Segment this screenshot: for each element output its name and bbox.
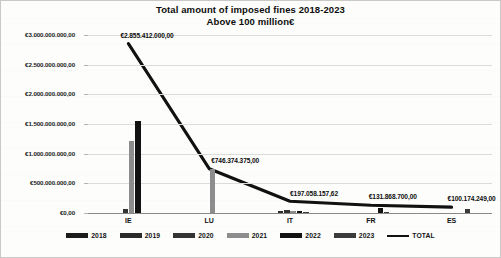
legend-swatch-2022 (280, 233, 302, 238)
bar-2022-IT (297, 211, 303, 213)
scan-artifact (0, 44, 501, 45)
legend-item-2021[interactable]: 2021 (227, 232, 268, 239)
bar-2023-FR (384, 212, 390, 213)
gridline (88, 183, 492, 184)
bar-2019-IT (278, 211, 284, 213)
y-axis-tick-mark (84, 183, 88, 184)
bar-2021-LU (210, 169, 216, 213)
legend-label-2021: 2021 (252, 232, 268, 239)
scan-artifact (0, 148, 501, 149)
legend-swatch-2018 (66, 233, 88, 238)
legend-swatch-2021 (227, 233, 249, 238)
legend-item-2019[interactable]: 2019 (120, 232, 161, 239)
scan-artifact (0, 70, 501, 71)
legend-label-2019: 2019 (145, 232, 161, 239)
y-axis-tick-mark (84, 124, 88, 125)
y-axis-tick-label: €2.500.000.000,00 (0, 61, 75, 68)
gridline (88, 124, 492, 125)
data-label-IE: €2.855.412.000,00 (120, 32, 173, 39)
page-title: Total amount of imposed fines 2018-2023 (0, 4, 501, 16)
bar-2022-FR (378, 208, 384, 213)
x-axis-line (88, 213, 492, 214)
y-axis-tick-mark (84, 65, 88, 66)
y-axis-tick-label: €3.000.000.000,00 (0, 31, 75, 38)
scan-artifact (0, 122, 501, 123)
chart-legend: 201820192020202120222023TOTAL (0, 232, 501, 239)
data-label-IT: €197.058.157,62 (290, 190, 338, 197)
y-axis-tick-label: €1.000.000.000,00 (0, 150, 75, 157)
x-axis-category-IT: IT (270, 217, 310, 224)
legend-label-2020: 2020 (198, 232, 214, 239)
bar-2023-IT (303, 212, 309, 213)
legend-item-2022[interactable]: 2022 (280, 232, 321, 239)
legend-item-TOTAL[interactable]: TOTAL (387, 232, 435, 239)
legend-label-2023: 2023 (359, 232, 375, 239)
legend-label-TOTAL: TOTAL (412, 232, 435, 239)
legend-label-2022: 2022 (305, 232, 321, 239)
x-axis-category-LU: LU (189, 217, 229, 224)
y-axis-tick-label: €0,00 (0, 209, 75, 216)
legend-item-2020[interactable]: 2020 (173, 232, 214, 239)
legend-swatch-2023 (334, 233, 356, 238)
legend-item-2018[interactable]: 2018 (66, 232, 107, 239)
plot-area: €3.000.000.000,00€2.500.000.000,00€2.000… (88, 35, 492, 213)
y-axis-tick-label: €500.000.000,00 (0, 179, 75, 186)
bar-2021-IT (290, 211, 296, 213)
gridline (88, 65, 492, 66)
bar-2020-IT (284, 210, 290, 213)
legend-label-2018: 2018 (91, 232, 107, 239)
bar-2021-IE (129, 141, 135, 213)
scan-artifact (0, 174, 501, 175)
scan-artifact (0, 96, 501, 97)
bar-2023-ES (465, 209, 471, 213)
scan-artifact (0, 200, 501, 201)
legend-item-2023[interactable]: 2023 (334, 232, 375, 239)
bar-2020-IE (123, 209, 129, 213)
scan-artifact (0, 226, 501, 227)
legend-swatch-TOTAL (387, 235, 409, 237)
y-axis-tick-mark (84, 213, 88, 214)
y-axis-tick-mark (84, 35, 88, 36)
data-label-LU: €746.374.375,00 (211, 157, 259, 164)
x-axis-category-FR: FR (351, 217, 391, 224)
y-axis-tick-mark (84, 154, 88, 155)
x-axis-category-ES: ES (432, 217, 472, 224)
x-axis-category-IE: IE (108, 217, 148, 224)
scan-artifact (0, 18, 501, 19)
legend-swatch-2019 (120, 233, 142, 238)
legend-swatch-2020 (173, 233, 195, 238)
gridline (88, 154, 492, 155)
chart-title-block: Total amount of imposed fines 2018-2023 … (0, 4, 501, 27)
